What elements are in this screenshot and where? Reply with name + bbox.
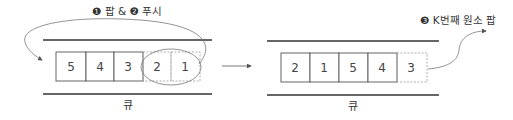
pop-arrow-icon <box>428 31 486 69</box>
left-queue: 5 4 3 2 1 큐 <box>25 19 212 112</box>
queue-label: 큐 <box>348 100 358 113</box>
queue-cell: 1 <box>310 53 339 82</box>
svg-text:3: 3 <box>407 61 415 75</box>
queue-label: 큐 <box>123 99 133 112</box>
svg-text:4: 4 <box>96 60 104 74</box>
queue-cell: 2 <box>281 53 310 82</box>
right-queue: 2 1 5 4 3 큐 <box>267 31 486 113</box>
step-label-pop-push: ❶ 팝 & ❷ 푸시 <box>92 3 162 18</box>
svg-text:1: 1 <box>181 60 189 74</box>
queue-cell: 5 <box>56 52 86 81</box>
queue-cell-dashed: 3 <box>397 53 427 82</box>
svg-text:2: 2 <box>291 61 299 75</box>
step-label-kth-pop: ❸ K번째 원소 팝 <box>420 12 496 27</box>
svg-text:5: 5 <box>349 61 357 75</box>
queue-cell: 4 <box>368 53 397 82</box>
svg-text:2: 2 <box>153 60 161 74</box>
svg-text:4: 4 <box>378 61 386 75</box>
svg-text:3: 3 <box>124 60 132 74</box>
svg-text:1: 1 <box>320 61 328 75</box>
queue-cell: 4 <box>86 52 114 81</box>
queue-cell: 5 <box>339 53 368 82</box>
queue-cell: 3 <box>114 52 143 81</box>
svg-text:5: 5 <box>67 60 75 74</box>
